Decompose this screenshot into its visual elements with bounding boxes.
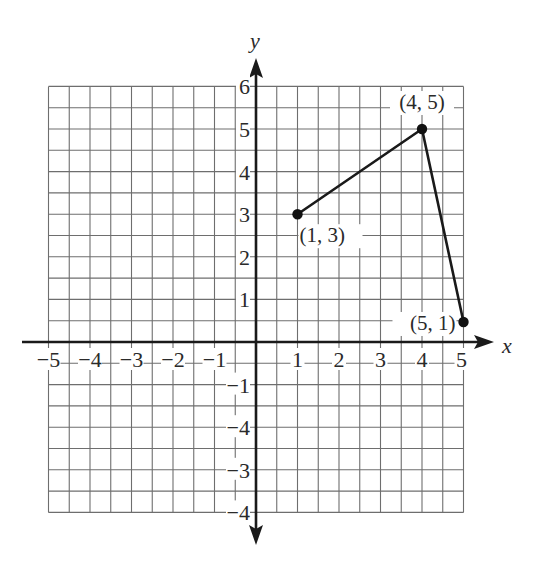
y-tick-label: −4 xyxy=(227,415,250,440)
point-label: (1, 3) xyxy=(300,223,346,247)
x-axis-label: x xyxy=(501,333,512,358)
y-tick-label: 2 xyxy=(239,245,250,270)
y-tick-label: −1 xyxy=(227,373,250,398)
y-tick-label: −4 xyxy=(227,500,250,525)
data-point-marker xyxy=(292,209,302,219)
y-tick-label: −3 xyxy=(227,458,250,483)
y-tick-label: 6 xyxy=(239,74,250,99)
x-tick-label: 3 xyxy=(375,347,386,372)
y-tick-label: 4 xyxy=(239,160,250,185)
x-tick-label: −2 xyxy=(161,347,184,372)
y-tick-label: 3 xyxy=(239,202,250,227)
y-axis-label: y xyxy=(248,28,260,53)
data-point-marker xyxy=(417,124,427,134)
x-tick-label: −4 xyxy=(78,347,101,372)
y-tick-label: 5 xyxy=(239,117,250,142)
x-tick-label: −5 xyxy=(37,347,60,372)
data-point-marker xyxy=(458,317,468,327)
x-tick-label: −3 xyxy=(120,347,143,372)
x-tick-label: 2 xyxy=(334,347,345,372)
point-label: (5, 1) xyxy=(410,311,456,335)
point-label: (4, 5) xyxy=(399,90,445,114)
x-tick-label: −1 xyxy=(203,347,226,372)
x-tick-label: 5 xyxy=(456,347,467,372)
y-tick-label: 1 xyxy=(239,287,250,312)
x-tick-label: 4 xyxy=(417,347,428,372)
coordinate-plane: −5−4−3−2−112345654321−1−4−3−4 (1, 3)(4, … xyxy=(0,0,537,565)
x-tick-label: 1 xyxy=(292,347,303,372)
